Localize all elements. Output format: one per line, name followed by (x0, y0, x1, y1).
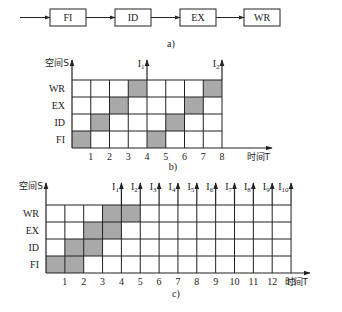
row-label-fi: FI (30, 259, 39, 270)
busy-cell-fi (72, 131, 91, 148)
instruction-label: I6 (206, 181, 213, 194)
busy-cell-fi (65, 256, 84, 273)
row-label-wr: WR (49, 83, 65, 94)
stage-box-id: ID (115, 9, 151, 26)
x-tick-label: 7 (201, 151, 206, 162)
row-label-fi: FI (56, 134, 65, 145)
busy-cell-id (91, 114, 110, 131)
row-label-wr: WR (23, 208, 39, 219)
busy-cell-fi (147, 131, 166, 148)
non-pipelined-space-time-diagram: 空间S时间TFIIDEXWR12345678I1I2 (45, 57, 272, 162)
busy-cell-ex (84, 222, 103, 239)
stage-box-wr: WR (244, 9, 280, 26)
x-tick-label: 1 (88, 151, 93, 162)
stage-label: FI (64, 12, 73, 23)
x-tick-label: 3 (126, 151, 131, 162)
busy-cell-id (65, 239, 84, 256)
instruction-label: I2 (213, 58, 220, 71)
x-tick-label: 9 (213, 276, 218, 287)
x-tick-label: 8 (220, 151, 225, 162)
busy-cell-wr (203, 80, 222, 97)
instruction-label: I1 (112, 181, 119, 194)
x-tick-label: 1 (62, 276, 67, 287)
instruction-label: I8 (244, 181, 251, 194)
x-tick-label: 2 (107, 151, 112, 162)
x-tick-label: 11 (249, 276, 259, 287)
row-label-ex: EX (26, 225, 40, 236)
row-label-id: ID (28, 242, 39, 253)
x-tick-label: 10 (230, 276, 240, 287)
stage-label: EX (191, 12, 205, 23)
busy-cell-ex (110, 97, 129, 114)
stage-box-ex: EX (180, 9, 216, 26)
x-tick-label: 4 (145, 151, 150, 162)
x-tick-label: 6 (157, 276, 162, 287)
pipeline-stages-figure: FIIDEXWR (20, 9, 280, 26)
x-tick-label: 5 (163, 151, 168, 162)
instruction-label: I4 (169, 181, 176, 194)
x-axis-label: 时间T (247, 151, 271, 162)
instruction-label: I3 (150, 181, 157, 194)
stage-label: ID (128, 12, 139, 23)
row-label-id: ID (54, 117, 65, 128)
y-axis-label: 空间S (19, 180, 43, 191)
figure-a-caption: a) (167, 38, 175, 50)
busy-cell-wr (128, 80, 147, 97)
instruction-label: I10 (278, 181, 289, 194)
pipelined-space-time-diagram: 空间S时间TFIIDEXWR12345678910111213I1I2I3I4I… (19, 180, 310, 287)
busy-cell-id (166, 114, 185, 131)
y-axis-label: 空间S (45, 57, 69, 68)
instruction-label: I2 (131, 181, 138, 194)
figure-b-caption: b) (169, 161, 177, 173)
instruction-label: I5 (187, 181, 194, 194)
stage-box-fi: FI (50, 9, 86, 26)
x-tick-label: 3 (100, 276, 105, 287)
x-tick-label: 2 (81, 276, 86, 287)
x-tick-label: 6 (182, 151, 187, 162)
figure-c-caption: c) (172, 288, 180, 300)
busy-cell-wr (103, 205, 122, 222)
x-tick-label: 13 (286, 276, 296, 287)
busy-cell-ex (185, 97, 204, 114)
x-tick-label: 12 (267, 276, 277, 287)
instruction-label: I9 (263, 181, 270, 194)
busy-cell-wr (121, 205, 140, 222)
x-tick-label: 8 (194, 276, 199, 287)
stage-label: WR (254, 12, 270, 23)
x-tick-label: 4 (119, 276, 124, 287)
busy-cell-fi (46, 256, 65, 273)
busy-cell-ex (103, 222, 122, 239)
pipeline-diagram: FIIDEXWR a) 空间S时间TFIIDEXWR12345678I1I2 b… (0, 0, 342, 312)
row-label-ex: EX (52, 100, 66, 111)
x-tick-label: 7 (175, 276, 180, 287)
instruction-label: I7 (225, 181, 232, 194)
instruction-label: I1 (138, 58, 145, 71)
busy-cell-id (84, 239, 103, 256)
x-tick-label: 5 (138, 276, 143, 287)
